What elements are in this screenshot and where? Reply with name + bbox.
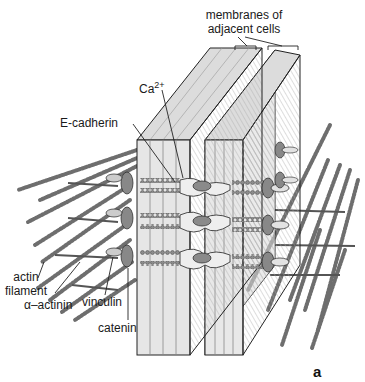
label-actin-filament: actin filament bbox=[2, 270, 50, 298]
label-alpha-actinin: α–actinin bbox=[24, 298, 72, 312]
label-e-cadherin: E-cadherin bbox=[60, 116, 118, 130]
junction-diagram bbox=[0, 0, 365, 382]
label-membranes-line2: adjacent cells bbox=[196, 22, 292, 36]
label-vinculin: vinculin bbox=[82, 295, 122, 309]
label-catenin: catenin bbox=[98, 321, 137, 335]
panel-letter: a bbox=[313, 363, 321, 380]
label-membranes-of-adjacent-cells: membranes of adjacent cells bbox=[196, 8, 292, 36]
label-actin-line1: actin bbox=[2, 270, 50, 284]
label-calcium-base: Ca bbox=[139, 82, 154, 96]
label-calcium-superscript: 2+ bbox=[154, 80, 164, 90]
label-calcium: Ca2+ bbox=[139, 78, 165, 96]
label-actin-line2: filament bbox=[2, 284, 50, 298]
label-membranes-line1: membranes of bbox=[196, 8, 292, 22]
